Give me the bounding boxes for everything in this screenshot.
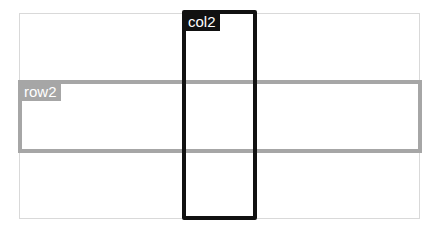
column-highlight: col2	[182, 10, 257, 220]
row-label: row2	[21, 83, 61, 101]
column-label: col2	[185, 13, 220, 31]
